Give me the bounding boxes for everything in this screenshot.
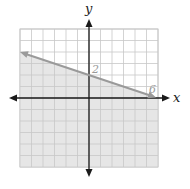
y-axis-up-arrow-icon bbox=[86, 19, 93, 27]
x-axis-label: x bbox=[173, 90, 181, 105]
y-intercept-label: 2 bbox=[91, 63, 99, 76]
coordinate-plane: x y 2 6 bbox=[0, 0, 190, 189]
x-axis-right-arrow-icon bbox=[162, 95, 170, 102]
x-intercept-label: 6 bbox=[149, 83, 156, 96]
y-axis-down-arrow-icon bbox=[86, 169, 93, 177]
x-axis-left-arrow-icon bbox=[9, 95, 17, 102]
y-axis-label: y bbox=[84, 1, 93, 16]
